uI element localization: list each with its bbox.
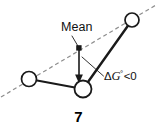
standard-state-symbol: ° — [120, 69, 123, 78]
mean-label: Mean — [61, 21, 93, 34]
mean-point-marker — [76, 45, 81, 50]
delta-g-relation: <0 — [124, 70, 137, 82]
figure-container: Mean ΔG°<0 7 — [0, 0, 157, 133]
delta-symbol: Δ — [104, 70, 112, 82]
bottom-center-node — [75, 81, 92, 98]
mean-leader-line — [72, 36, 78, 47]
delta-g-label: ΔG°<0 — [104, 69, 137, 82]
figure-number-label: 7 — [0, 109, 157, 124]
top-right-node — [125, 13, 139, 27]
left-node — [22, 72, 37, 87]
